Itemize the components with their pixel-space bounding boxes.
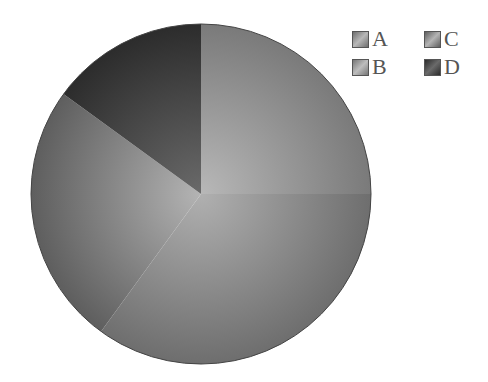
legend-swatch-a [352,31,369,48]
legend: A C B D [352,28,488,78]
legend-swatch-c [424,31,441,48]
legend-label-c: C [444,28,459,50]
legend-item-c: C [424,28,488,50]
legend-item-b: B [352,56,424,78]
legend-item-a: A [352,28,424,50]
legend-label-b: B [372,56,387,78]
pie-slices [31,24,371,364]
pie-slice-a [201,24,371,194]
legend-swatch-d [424,59,441,76]
legend-label-d: D [444,56,460,78]
legend-label-a: A [372,28,388,50]
legend-swatch-b [352,59,369,76]
legend-item-d: D [424,56,488,78]
